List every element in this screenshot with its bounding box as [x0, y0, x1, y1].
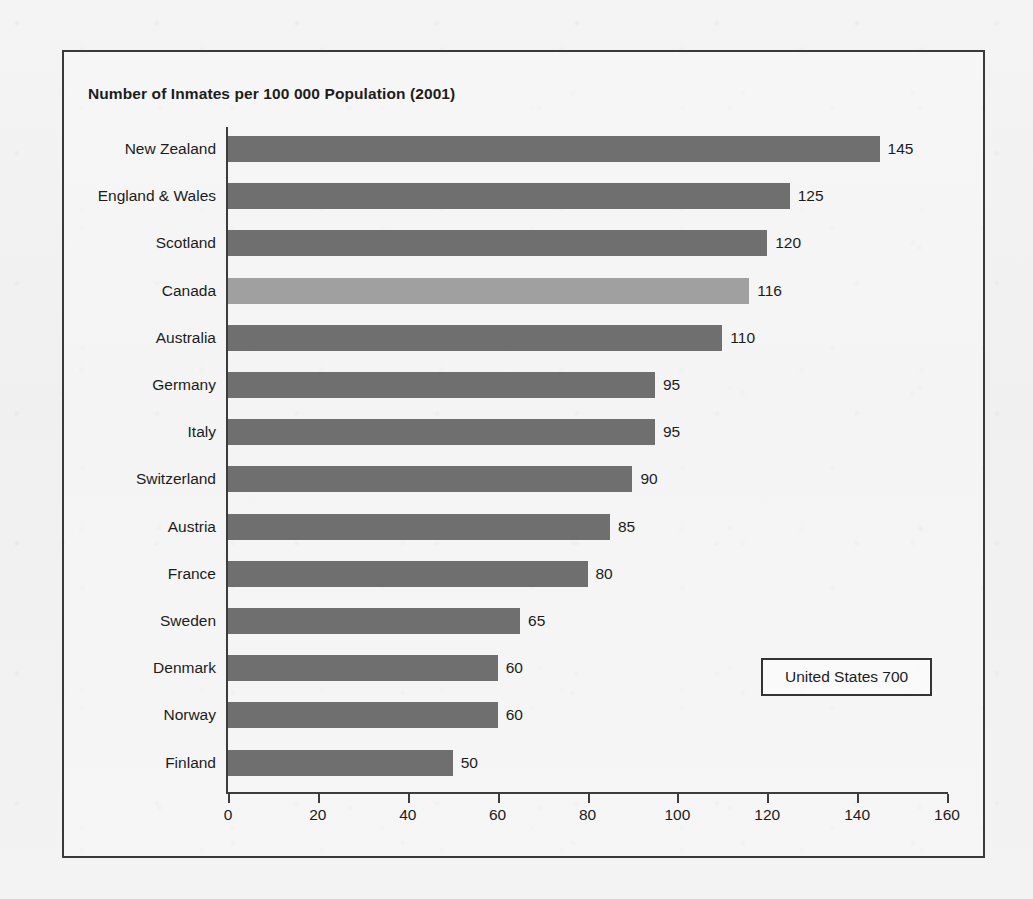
category-label: Australia — [156, 330, 216, 346]
category-label: Sweden — [160, 613, 216, 629]
united-states-annotation: United States 700 — [761, 658, 932, 696]
category-label: Austria — [168, 519, 216, 535]
bar-value-label: 110 — [730, 330, 755, 346]
x-tick-label: 120 — [754, 807, 780, 823]
bar-value-label: 95 — [663, 377, 680, 393]
bar — [228, 278, 749, 304]
category-label: Germany — [152, 377, 216, 393]
bar — [228, 183, 790, 209]
bar — [228, 419, 655, 445]
x-tick — [677, 794, 679, 803]
chart-frame: Number of Inmates per 100 000 Population… — [62, 50, 985, 858]
x-tick-label: 60 — [489, 807, 506, 823]
bar — [228, 136, 880, 162]
bar-value-label: 85 — [618, 519, 635, 535]
category-label: Italy — [188, 424, 216, 440]
x-tick — [228, 794, 230, 803]
bar-value-label: 145 — [888, 141, 914, 157]
bar — [228, 655, 498, 681]
category-label: Norway — [163, 707, 216, 723]
bar — [228, 702, 498, 728]
y-axis-line — [226, 127, 228, 792]
category-label: Scotland — [156, 235, 216, 251]
bar — [228, 514, 610, 540]
plot-area: New ZealandEngland & WalesScotlandCanada… — [64, 52, 987, 860]
bar-value-label: 120 — [775, 235, 801, 251]
bar — [228, 372, 655, 398]
category-label: Denmark — [153, 660, 216, 676]
x-tick — [588, 794, 590, 803]
category-label: Switzerland — [136, 471, 216, 487]
bar — [228, 325, 722, 351]
x-tick-label: 80 — [579, 807, 596, 823]
bar-value-label: 116 — [757, 283, 782, 299]
x-tick-label: 160 — [934, 807, 960, 823]
bar — [228, 466, 632, 492]
x-tick-label: 40 — [399, 807, 416, 823]
x-tick — [947, 794, 949, 803]
y-axis-category-labels: New ZealandEngland & WalesScotlandCanada… — [64, 52, 216, 860]
bar-value-label: 50 — [461, 755, 478, 771]
bar — [228, 230, 767, 256]
category-label: New Zealand — [125, 141, 216, 157]
bar — [228, 561, 588, 587]
bar-value-label: 125 — [798, 188, 824, 204]
x-tick-label: 20 — [309, 807, 326, 823]
bar-value-label: 60 — [506, 660, 523, 676]
x-tick-label: 100 — [664, 807, 690, 823]
x-tick-label: 0 — [224, 807, 233, 823]
bar-value-label: 60 — [506, 707, 523, 723]
bar-value-label: 65 — [528, 613, 545, 629]
x-tick — [857, 794, 859, 803]
x-tick — [408, 794, 410, 803]
x-tick-label: 140 — [844, 807, 870, 823]
bar-value-label: 80 — [596, 566, 613, 582]
category-label: Finland — [165, 755, 216, 771]
category-label: Canada — [162, 283, 216, 299]
x-tick — [318, 794, 320, 803]
category-label: England & Wales — [98, 188, 216, 204]
x-tick — [498, 794, 500, 803]
category-label: France — [168, 566, 216, 582]
bar-value-label: 95 — [663, 424, 680, 440]
bar — [228, 608, 520, 634]
bar-value-label: 90 — [640, 471, 657, 487]
bar — [228, 750, 453, 776]
x-tick — [767, 794, 769, 803]
